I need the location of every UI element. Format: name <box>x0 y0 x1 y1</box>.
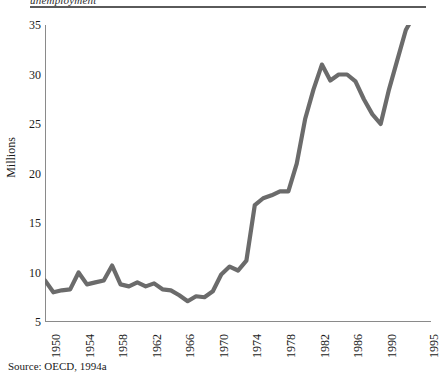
x-tick-label: 1950 <box>50 334 62 358</box>
x-tick-label: 1970 <box>218 334 230 358</box>
y-tick-label: 10 <box>1 267 41 279</box>
data-line-unemployment <box>45 25 431 301</box>
x-tick-label: 1978 <box>285 334 297 358</box>
x-tick-label: 1954 <box>84 334 96 358</box>
x-tick-label: 1982 <box>319 334 331 358</box>
x-tick-label: 1962 <box>151 334 163 358</box>
title-rule <box>30 6 426 8</box>
x-tick-label: 1995 <box>428 334 440 358</box>
x-tick-label: 1958 <box>117 334 129 358</box>
chart-plot-area <box>45 25 431 322</box>
y-tick-label: 30 <box>1 69 41 81</box>
x-tick-label: 1966 <box>184 334 196 358</box>
y-tick-label: 15 <box>1 217 41 229</box>
x-tick-label: 1990 <box>386 334 398 358</box>
y-tick-label: 5 <box>1 316 41 328</box>
x-tick-label: 1974 <box>251 334 263 358</box>
x-axis-ticks: 1950195419581962196619701974197819821986… <box>45 322 431 362</box>
y-tick-label: 35 <box>1 19 41 31</box>
x-tick-label: 1986 <box>352 334 364 358</box>
y-axis-title: Millions <box>4 123 19 193</box>
source-note: Source: OECD, 1994a <box>8 360 107 372</box>
